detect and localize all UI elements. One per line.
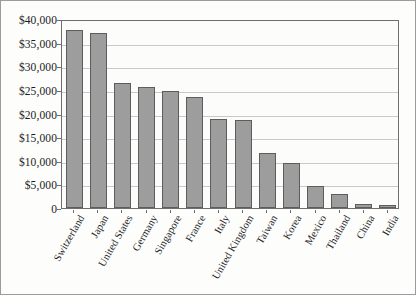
bar <box>259 153 276 208</box>
y-tick-label: $40,000 <box>19 14 57 26</box>
bars-group <box>62 21 398 208</box>
bar-chart-figure: 0$5,000$10,000$15,000$20,000$25,000$30,0… <box>0 0 416 295</box>
x-tick-label: Japan <box>89 213 111 240</box>
x-tick-mark <box>73 210 74 213</box>
plot-area <box>61 20 399 209</box>
x-tick-label: Mexico <box>302 213 328 247</box>
bar <box>283 163 300 208</box>
y-tick-label: $20,000 <box>19 109 57 121</box>
bar <box>186 97 203 208</box>
y-tick-label: $30,000 <box>19 61 57 73</box>
x-tick-mark <box>97 210 98 213</box>
x-tick-label: Italy <box>212 213 231 236</box>
x-tick-label: Taiwan <box>255 213 280 246</box>
bar <box>90 33 107 208</box>
x-tick-mark <box>218 210 219 213</box>
y-axis: 0$5,000$10,000$15,000$20,000$25,000$30,0… <box>1 20 57 209</box>
x-tick-label: China <box>354 213 376 241</box>
y-tick-label: $25,000 <box>19 85 57 97</box>
bar <box>331 194 348 208</box>
bar <box>114 83 131 208</box>
x-tick-mark <box>146 210 147 213</box>
bar <box>66 30 83 208</box>
x-tick-mark <box>194 210 195 213</box>
bar <box>210 119 227 208</box>
x-tick-mark <box>339 210 340 213</box>
x-tick-mark <box>315 210 316 213</box>
x-axis: SwitzerlandJapanUnited StatesGermanySing… <box>61 210 399 294</box>
x-tick-label: India <box>380 213 401 238</box>
x-tick-label: France <box>183 213 207 244</box>
bar <box>138 87 155 208</box>
x-tick-label: Switzerland <box>51 213 86 263</box>
y-tick-label: $5,000 <box>25 179 57 191</box>
bar <box>307 186 324 208</box>
bar <box>235 120 252 208</box>
x-tick-mark <box>387 210 388 213</box>
y-tick-label: $15,000 <box>19 132 57 144</box>
x-tick-mark <box>121 210 122 213</box>
y-tick-label: $10,000 <box>19 156 57 168</box>
bar <box>355 204 372 208</box>
bar <box>162 91 179 208</box>
bar <box>379 205 396 208</box>
x-tick-label: Korea <box>281 213 304 241</box>
x-tick-mark <box>170 210 171 213</box>
y-tick-label: $35,000 <box>19 38 57 50</box>
x-tick-mark <box>242 210 243 213</box>
x-tick-mark <box>290 210 291 213</box>
x-tick-mark <box>266 210 267 213</box>
x-tick-mark <box>363 210 364 213</box>
